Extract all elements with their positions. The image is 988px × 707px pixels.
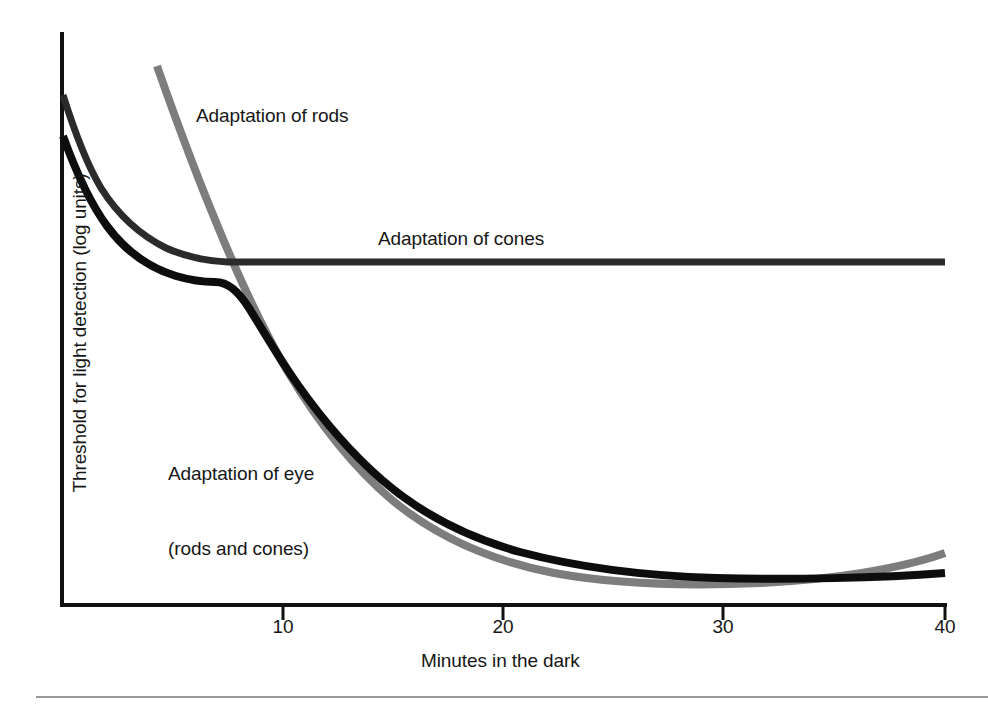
x-axis-ticks xyxy=(283,605,945,620)
x-tick-label-20: 20 xyxy=(481,616,525,638)
dark-adaptation-figure: Adaptation of rods Adaptation of cones A… xyxy=(0,0,988,707)
annotation-adaptation-of-eye-line1: Adaptation of eye xyxy=(168,461,314,486)
y-axis-title: Threshold for light detection (log units… xyxy=(69,93,91,573)
x-tick-label-10: 10 xyxy=(261,616,305,638)
annotation-adaptation-of-eye-line2: (rods and cones) xyxy=(168,536,314,561)
x-axis-title: Minutes in the dark xyxy=(421,650,580,672)
annotation-adaptation-of-cones: Adaptation of cones xyxy=(378,228,544,250)
x-tick-label-40: 40 xyxy=(923,616,967,638)
footer-divider xyxy=(36,696,988,698)
plot-area xyxy=(0,0,988,707)
x-tick-label-30: 30 xyxy=(701,616,745,638)
annotation-adaptation-of-rods: Adaptation of rods xyxy=(196,105,348,127)
annotation-adaptation-of-eye: Adaptation of eye (rods and cones) xyxy=(168,411,314,611)
